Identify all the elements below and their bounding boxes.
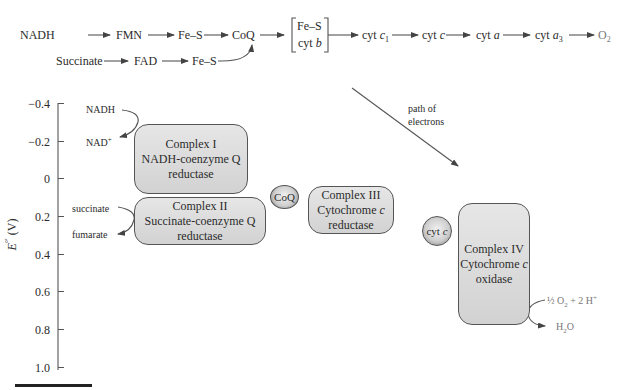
chain-bracket-cytb: cyt b [298, 37, 322, 49]
y-tick-label: 1.0 [10, 361, 50, 376]
chain-fes-2: Fe–S [192, 55, 217, 67]
y-tick-label: −0.2 [10, 135, 50, 150]
chain-cyt-c: cyt c [422, 29, 445, 41]
y-tick-label: 0 [10, 172, 50, 187]
complex-ii-type: reductase [177, 229, 222, 244]
fumarate-label: fumarate [72, 230, 108, 240]
o2-protons-label: ½ O2 + 2 H+ [547, 295, 597, 309]
y-tick-label: 0.6 [10, 285, 50, 300]
complex-i-name: NADH-coenzyme Q [142, 152, 241, 167]
complex-iii: Complex III Cytochrome c reductase [308, 186, 394, 234]
succinate-label: succinate [72, 204, 109, 214]
path-label-line2: electrons [408, 117, 444, 127]
complex-i: Complex I NADH-coenzyme Q reductase [134, 124, 248, 194]
complex-iv-name: Cytochrome c [460, 257, 528, 272]
complex-iv-type: oxidase [476, 272, 513, 287]
chain-fes-1: Fe–S [178, 29, 203, 41]
y-axis-title: E°′ (V) [5, 219, 18, 251]
chain-succinate: Succinate [56, 55, 103, 67]
nadh-label: NADH [86, 105, 115, 115]
y-tick-label: 0.8 [10, 323, 50, 338]
chain-nadh: NADH [20, 29, 55, 41]
chain-fad: FAD [134, 55, 157, 67]
complex-iii-title: Complex III [322, 188, 381, 203]
chain-cyt-a: cyt a [476, 29, 500, 41]
chain-fmn: FMN [116, 29, 142, 41]
path-label-line1: path of [408, 104, 436, 114]
complex-iv-title: Complex IV [464, 242, 524, 257]
cyt-c-carrier: cyt c [422, 216, 452, 246]
chain-bracket-fes: Fe–S [297, 20, 322, 32]
complex-ii: Complex II Succinate-coenzyme Q reductas… [134, 197, 266, 245]
chain-coq: CoQ [232, 29, 255, 41]
complex-i-title: Complex I [166, 137, 217, 152]
nad-plus-label: NAD+ [86, 137, 112, 148]
h2o-label: H2O [556, 322, 574, 335]
complex-iv: Complex IV Cytochrome c oxidase [458, 203, 530, 325]
chain-cyt-c1: cyt c1 [362, 29, 389, 44]
complex-ii-name: Succinate-coenzyme Q [145, 214, 256, 229]
chain-o2: O2 [598, 29, 611, 44]
chain-cyt-a3: cyt a3 [535, 29, 563, 44]
complex-ii-title: Complex II [173, 199, 228, 214]
complex-i-type: reductase [168, 167, 213, 182]
complex-iii-type: reductase [328, 218, 373, 233]
complex-iii-name: Cytochrome c [317, 203, 385, 218]
y-tick-label: −0.4 [10, 97, 50, 112]
coq-carrier: CoQ [270, 185, 299, 209]
